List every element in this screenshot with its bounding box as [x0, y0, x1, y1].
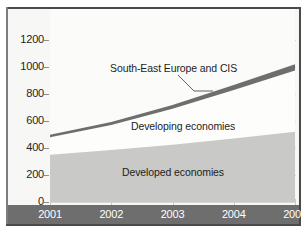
x-tick-mark: [234, 199, 235, 205]
frame-border-right: [299, 7, 301, 226]
x-tick-label: 2003: [151, 208, 195, 220]
x-tick-mark: [111, 199, 112, 205]
x-tick-mark: [50, 199, 51, 205]
x-tick-label: 2001: [28, 208, 72, 220]
x-tick-label: 2004: [212, 208, 256, 220]
x-tick-mark: [295, 199, 296, 205]
y-tick-label: 1200: [0, 34, 44, 45]
y-tick-mark: [44, 202, 49, 203]
y-tick-mark: [44, 148, 49, 149]
y-tick-mark: [44, 94, 49, 95]
y-tick-mark: [44, 175, 49, 176]
y-tick-label: 1000: [0, 61, 44, 72]
annotation-developing-economies: Developing economies: [131, 120, 235, 132]
annotation-developed-economies: Developed economies: [122, 166, 224, 178]
y-tick-mark: [44, 40, 49, 41]
y-tick-label: 800: [0, 88, 44, 99]
y-tick-label: 200: [0, 169, 44, 180]
x-tick-label: 2002: [89, 208, 133, 220]
annotation-south-east-europe-and-cis: South-East Europe and CIS: [110, 62, 237, 74]
y-tick-label: 600: [0, 115, 44, 126]
y-tick-mark: [44, 121, 49, 122]
chart-figure: 020040060080010001200 200120022003200420…: [0, 0, 307, 234]
x-tick-mark: [173, 199, 174, 205]
y-tick-label: 400: [0, 142, 44, 153]
x-tick-label: 2005: [273, 208, 307, 220]
y-tick-mark: [44, 67, 49, 68]
frame-border-bottom: [6, 224, 301, 226]
